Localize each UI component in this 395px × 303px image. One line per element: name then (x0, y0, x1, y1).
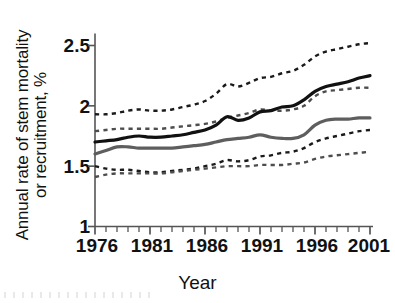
series-line-4 (95, 88, 370, 132)
plot-area (0, 0, 395, 303)
series-line-1 (95, 43, 370, 114)
scan-artifact (4, 292, 154, 298)
chart-canvas (0, 0, 395, 303)
series-line-5 (95, 152, 370, 177)
figure: Annual rate of stem mortality or recruit… (0, 0, 395, 303)
